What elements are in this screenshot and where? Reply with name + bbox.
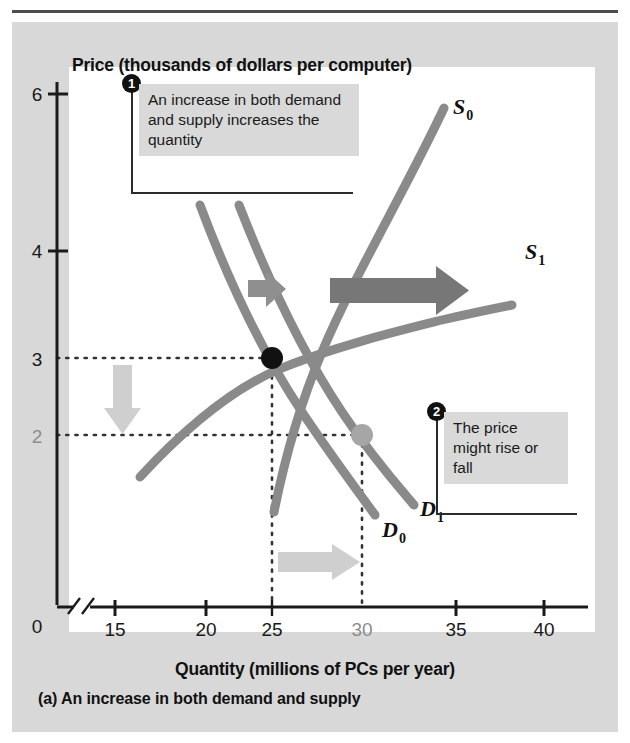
supply-shift-arrow — [330, 266, 469, 315]
callout-1-rule-vertical — [131, 84, 133, 194]
svg-text:D1: D1 — [419, 496, 444, 525]
callout-2-rule-vertical — [436, 412, 438, 515]
y-tick-3: 3 — [32, 349, 43, 370]
callout-1-rule-horizontal — [131, 192, 353, 194]
y-tick-4: 4 — [32, 241, 43, 262]
svg-text:D0: D0 — [381, 517, 406, 546]
figure-page: Price (thousands of dollars per computer… — [0, 0, 630, 743]
curve-label-D0: D0 — [381, 517, 406, 546]
svg-text:S0: S0 — [453, 94, 473, 123]
callout-2-rule-horizontal — [436, 513, 577, 515]
y-tick-2: 2 — [32, 426, 43, 447]
x-tick-20: 20 — [195, 619, 216, 640]
price-fall-arrow — [104, 365, 141, 434]
x-tick-35: 35 — [445, 619, 466, 640]
x-tick-40: 40 — [533, 619, 554, 640]
y-tick-0: 0 — [32, 616, 43, 637]
figure-top-rule — [12, 10, 618, 13]
figure-panel: Price (thousands of dollars per computer… — [12, 22, 618, 732]
x-tick-30: 30 — [351, 619, 372, 640]
curve-S0 — [274, 108, 444, 512]
y-tick-6: 6 — [32, 84, 43, 105]
x-tick-labels: 15 20 25 30 35 40 — [104, 619, 554, 640]
figure-caption: (a) An increase in both demand and suppl… — [38, 690, 360, 708]
quantity-rise-arrow — [278, 544, 360, 580]
new-equilibrium-dot — [351, 424, 373, 446]
x-axis-title: Quantity (millions of PCs per year) — [12, 659, 618, 680]
curve-label-S1: S1 — [525, 239, 545, 268]
original-equilibrium-dot — [261, 347, 283, 369]
y-tick-labels: 6 4 3 2 0 — [32, 84, 43, 637]
callout-1-text: An increase in both demand and supply in… — [139, 84, 359, 156]
x-tick-25: 25 — [261, 619, 282, 640]
curve-label-D1: D1 — [419, 496, 444, 525]
svg-text:S1: S1 — [525, 239, 545, 268]
curve-label-S0: S0 — [453, 94, 473, 123]
axes — [48, 82, 588, 616]
callout-2-text: The price might rise or fall — [444, 412, 568, 484]
x-tick-15: 15 — [104, 619, 125, 640]
